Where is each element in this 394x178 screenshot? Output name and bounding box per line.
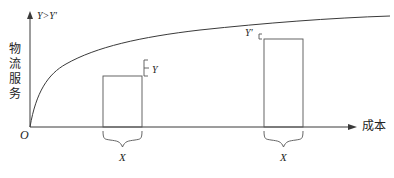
y-axis-label-char-0: 物: [6, 42, 23, 57]
y-axis-arrow-icon: [27, 11, 33, 19]
cost-brace-1: [103, 131, 142, 147]
y-axis-label-char-3: 务: [6, 87, 23, 102]
comparison-annotation: Y>Y′: [37, 11, 57, 21]
service-cost-curve: [30, 16, 390, 127]
gain-bracket-yprime: [259, 34, 262, 39]
y-axis: [27, 11, 33, 127]
cost-step-label-2: X: [280, 152, 287, 163]
step-rectangle-1: [103, 76, 142, 127]
origin-label: O: [20, 129, 29, 141]
page-bleed-bottom: [0, 168, 394, 178]
step-rectangle-2: [264, 39, 303, 127]
x-axis-arrow-icon: [348, 124, 357, 130]
x-axis-label: 成本: [362, 120, 386, 132]
gain-yprime-label: Y′: [245, 28, 253, 38]
y-axis-label-char-2: 服: [6, 72, 23, 87]
gain-y-label: Y: [152, 65, 158, 75]
diagram-canvas: [0, 0, 394, 178]
y-axis-label: 物 流 服 务: [6, 42, 23, 102]
cost-brace-2: [264, 131, 303, 147]
y-axis-label-char-1: 流: [6, 57, 23, 72]
x-axis: [30, 124, 357, 130]
cost-step-label-1: X: [119, 152, 126, 163]
gain-bracket-y: [144, 60, 149, 76]
figure-root: 物 流 服 务 成本 O Y>Y′ Y Y′ X X: [0, 0, 394, 178]
